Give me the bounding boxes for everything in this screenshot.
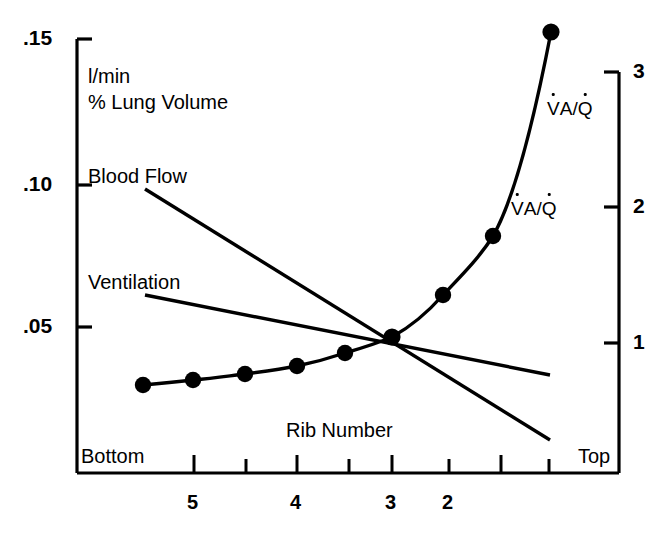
- axis-end-label-bottom: Bottom: [81, 446, 144, 466]
- data-point: [485, 228, 501, 244]
- data-point: [135, 377, 151, 393]
- x-axis-label-2: 2: [442, 492, 453, 512]
- q-dot-symbol: Q: [542, 199, 557, 218]
- subscript-a: A: [524, 198, 537, 219]
- subscript-a: A: [560, 98, 573, 119]
- blood-flow-line: [145, 189, 550, 440]
- data-point: [337, 345, 353, 361]
- x-axis-label-4: 4: [290, 492, 301, 512]
- data-point: [289, 358, 305, 374]
- series-label-blood-flow: Blood Flow: [88, 166, 187, 186]
- right-axis-ticks: [604, 72, 619, 343]
- v-dot-symbol: V: [511, 199, 524, 218]
- axis-end-label-top: Top: [578, 446, 610, 466]
- q-dot-symbol: Q: [578, 99, 593, 118]
- right-axis-label-1: 1: [633, 331, 645, 352]
- ventilation-line: [145, 295, 550, 375]
- unit-label-per-minute: l/min: [88, 66, 130, 86]
- v-dot-symbol: V: [547, 99, 560, 118]
- x-axis-ticks: [194, 455, 549, 473]
- x-axis-title: Rib Number: [286, 420, 393, 440]
- right-axis-label-2: 2: [633, 195, 645, 216]
- x-axis-label-5: 5: [187, 492, 198, 512]
- data-point: [383, 328, 400, 345]
- left-axis-label-010: .10: [23, 173, 52, 194]
- right-axis-title-va-q: VA/Q: [547, 99, 592, 118]
- left-axis-label-005: .05: [23, 315, 52, 336]
- data-point: [435, 287, 451, 303]
- series-label-ventilation: Ventilation: [88, 272, 180, 292]
- data-point: [542, 23, 559, 40]
- unit-label-percent-lung-volume: % Lung Volume: [88, 92, 228, 112]
- left-axis-label-015: .15: [23, 27, 52, 48]
- va-q-curve: [143, 32, 551, 385]
- data-point: [185, 372, 201, 388]
- x-axis-label-3: 3: [385, 492, 396, 512]
- figure-canvas: .15 .10 .05 3 2 1 5 4 3 2 l/min % Lung V…: [0, 0, 667, 537]
- right-axis-label-3: 3: [633, 60, 645, 81]
- curve-annotation-va-q: VA/Q: [511, 199, 556, 218]
- va-q-data-points: [135, 23, 560, 393]
- data-point: [237, 366, 253, 382]
